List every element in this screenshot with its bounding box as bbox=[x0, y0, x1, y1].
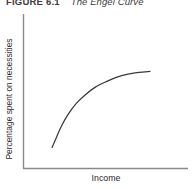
figure-container: FIGURE 6.1 The Engel Curve Percentage sp… bbox=[0, 0, 193, 189]
y-axis-label: Percentage spent on necessities bbox=[2, 27, 16, 172]
engel-curve-line bbox=[52, 71, 150, 147]
x-axis-label: Income bbox=[23, 173, 189, 183]
engel-curve-plot bbox=[0, 0, 193, 189]
